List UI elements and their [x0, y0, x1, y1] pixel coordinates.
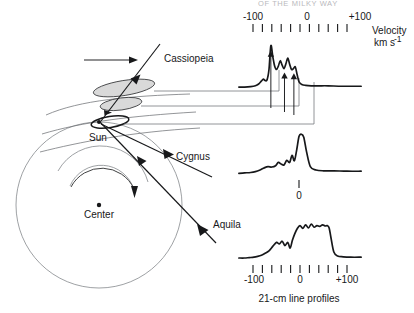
direction-label-cassiopeia: Cassiopeia: [164, 53, 214, 64]
profile-feature-arrowhead: [281, 72, 287, 78]
gas-cloud-far-arm: [92, 76, 156, 101]
axis-label-zero-bottom: 0: [297, 274, 303, 285]
profile-curve-cygnus: [239, 134, 361, 173]
rotation-arrowhead: [131, 186, 138, 198]
axis-label-zero-top: 0: [304, 11, 310, 22]
axis-label-plus100-bottom: +100: [336, 274, 359, 285]
axis-label-minus100-top: -100: [243, 11, 263, 22]
spiral-arc-outer: [58, 146, 148, 182]
axis-title-units: km s: [374, 37, 395, 48]
sun-label: Sun: [89, 132, 107, 143]
sightline-aquila: [99, 121, 216, 243]
figure-root: OF THE MILKY WAY Center Sun: [0, 0, 414, 313]
profile-aquila: -100 0 +100: [239, 224, 361, 285]
axis-ticks-bottom: [253, 265, 347, 273]
spiral-arc-inner: [70, 165, 134, 190]
profile-feature-arrows-cassiopeia: [268, 51, 297, 115]
streaming-motion-arrow: [84, 57, 138, 64]
connector-local-arm: [124, 82, 314, 124]
direction-label-aquila: Aquila: [213, 219, 241, 230]
milky-way-21cm-figure: OF THE MILKY WAY Center Sun: [0, 0, 414, 313]
axis-units-exponent: -1: [394, 34, 402, 44]
galactic-center-label: Center: [84, 209, 115, 220]
cropped-header-text: OF THE MILKY WAY: [258, 0, 338, 8]
galaxy-map-panel: Center Sun Cassiopeia Cygnus A: [16, 44, 241, 288]
axis-ticks-top: [253, 24, 347, 32]
galactic-center-dot: [97, 203, 101, 207]
profile-curve-aquila: [239, 224, 361, 258]
profile-feature-arrowhead: [291, 73, 297, 79]
connector-mid-arm: [141, 78, 299, 106]
profile-cassiopeia: [239, 45, 361, 115]
profile-curve-cassiopeia: [239, 45, 361, 87]
velocity-axis-top: -100 0 +100 Velocity km s -1: [243, 11, 406, 48]
direction-label-cygnus: Cygnus: [176, 151, 210, 162]
zero-label-cygnus: 0: [296, 190, 302, 201]
arm-lane-lower: [40, 128, 200, 152]
profile-cygnus: 0: [239, 134, 361, 201]
axis-label-plus100-top: +100: [349, 11, 372, 22]
rotation-arc: [71, 168, 134, 189]
connector-far-arm: [154, 70, 279, 91]
gas-cloud-mid-arm: [99, 95, 142, 113]
figure-caption: 21-cm line profiles: [258, 293, 339, 304]
axis-label-minus100-bottom: -100: [244, 274, 264, 285]
sightline-aquila-arrowhead-inner: [137, 156, 147, 166]
